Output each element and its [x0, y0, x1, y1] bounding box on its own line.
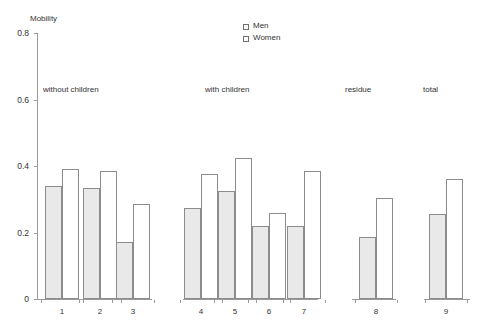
bar-men-1 — [45, 186, 62, 299]
section-label-total: total — [423, 85, 438, 94]
bar-men-3 — [116, 242, 133, 299]
x-tick-mark — [154, 300, 155, 303]
x-axis-segment — [183, 299, 318, 300]
x-tick-mark — [41, 300, 42, 303]
y-tick-label: 0.6 — [0, 95, 29, 105]
x-tick-mark — [325, 300, 326, 303]
x-tick-mark — [214, 300, 215, 303]
bar-women-1 — [62, 169, 79, 299]
bar-men-2 — [83, 188, 100, 299]
bar-men-7 — [287, 226, 304, 299]
mobility-bar-chart: Mobility 00.20.40.60.8 123456789 without… — [0, 0, 485, 331]
bar-women-3 — [133, 204, 150, 299]
legend-swatch-women — [243, 36, 249, 42]
x-tick-label-9: 9 — [426, 307, 466, 316]
x-tick-mark — [79, 300, 80, 303]
x-tick-mark — [222, 300, 223, 303]
y-tick-label: 0 — [0, 294, 29, 304]
x-axis-segment — [37, 299, 152, 300]
legend-label-men: Men — [253, 21, 269, 30]
bar-women-2 — [100, 171, 117, 299]
legend-label-women: Women — [253, 33, 280, 42]
x-tick-label-8: 8 — [356, 307, 396, 316]
x-tick-mark — [355, 300, 356, 303]
y-tick-mark — [34, 33, 38, 34]
x-axis-segment — [424, 299, 470, 300]
bar-women-6 — [269, 213, 286, 299]
section-label-without-children: without children — [43, 85, 99, 94]
x-tick-mark — [397, 300, 398, 303]
section-label-residue: residue — [345, 85, 371, 94]
bar-men-6 — [252, 226, 269, 299]
section-label-with-children: with children — [205, 85, 249, 94]
x-tick-mark — [256, 300, 257, 303]
y-tick-mark — [34, 233, 38, 234]
x-tick-mark — [290, 300, 291, 303]
bar-men-9 — [429, 214, 446, 299]
x-tick-label-7: 7 — [284, 307, 324, 316]
bar-women-7 — [304, 171, 321, 299]
x-tick-mark — [248, 300, 249, 303]
bar-men-4 — [184, 208, 201, 299]
y-tick-label: 0.2 — [0, 228, 29, 238]
legend-swatch-men — [243, 24, 249, 30]
x-tick-mark — [112, 300, 113, 303]
y-tick-label: 0.8 — [0, 28, 29, 38]
y-tick-label: 0.4 — [0, 161, 29, 171]
x-tick-mark — [283, 300, 284, 303]
x-tick-label-6: 6 — [249, 307, 289, 316]
x-tick-mark — [425, 300, 426, 303]
x-tick-label-3: 3 — [113, 307, 153, 316]
y-axis-title: Mobility — [30, 14, 57, 23]
x-tick-mark — [121, 300, 122, 303]
bar-men-5 — [218, 191, 235, 299]
x-tick-mark — [180, 300, 181, 303]
bar-women-8 — [376, 198, 393, 299]
bar-women-4 — [201, 174, 218, 299]
y-tick-mark — [34, 166, 38, 167]
bar-women-5 — [235, 158, 252, 299]
bar-men-8 — [359, 237, 376, 299]
bar-women-9 — [446, 179, 463, 299]
x-tick-label-1: 1 — [42, 307, 82, 316]
y-tick-mark — [34, 100, 38, 101]
x-tick-mark — [467, 300, 468, 303]
x-tick-mark — [83, 300, 84, 303]
x-axis-segment — [352, 299, 396, 300]
